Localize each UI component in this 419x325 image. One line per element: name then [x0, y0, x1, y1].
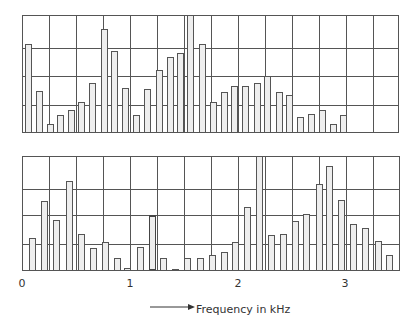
spectrum-bar: [210, 103, 216, 132]
spectrum-bar: [178, 53, 184, 132]
spectrum-bar: [42, 202, 48, 270]
spectrum-bar: [89, 84, 95, 132]
spectrum-bar: [102, 243, 108, 270]
spectrum-bar: [112, 52, 118, 132]
spectrum-bar: [47, 125, 53, 132]
spectrum-bar: [156, 71, 162, 132]
spectrum-bar: [254, 84, 260, 132]
spectrum-bar: [362, 229, 368, 270]
spectrum-bar: [264, 76, 270, 132]
spectrum-bar: [232, 87, 238, 132]
x-tick-3: 3: [342, 277, 349, 290]
spectrum-bar: [316, 185, 322, 271]
spectrum-bar: [257, 156, 263, 270]
spectrum-bar: [30, 239, 36, 270]
spectrum-bar: [327, 166, 333, 270]
spectrum-bar: [245, 207, 251, 270]
spectrum-bar: [287, 95, 293, 132]
spectrum-bar: [54, 220, 60, 270]
spectrum-bar: [221, 93, 227, 133]
spectrum-bar: [233, 243, 239, 270]
x-axis-label: Frequency in kHz: [196, 303, 290, 316]
x-tick-0: 0: [19, 277, 26, 290]
spectrum-bar: [58, 116, 64, 132]
upper-spectrum-panel: [22, 15, 398, 132]
spectrum-bar: [303, 214, 309, 270]
spectrum-bar: [67, 182, 73, 270]
spectrum-bar: [69, 110, 75, 132]
spectrum-bar: [184, 258, 190, 270]
spectrum-bar: [78, 103, 84, 132]
spectrum-bar: [298, 117, 304, 132]
spectrum-bar: [78, 234, 84, 270]
spectrum-bar: [280, 234, 286, 270]
spectrum-bar: [90, 249, 96, 270]
spectrum-chart: [0, 0, 419, 325]
spectrum-bar: [243, 87, 249, 132]
spectrum-bar: [319, 110, 325, 132]
x-tick-1: 1: [127, 277, 134, 290]
spectrum-bar: [144, 90, 150, 132]
spectrum-bar: [221, 253, 227, 270]
x-tick-2: 2: [235, 277, 242, 290]
spectrum-bar: [134, 116, 140, 132]
spectrum-bar: [197, 259, 203, 270]
spectrum-bar: [351, 224, 357, 270]
lower-spectrum-panel: [22, 156, 399, 270]
spectrum-bar: [123, 88, 129, 132]
x-axis-arrow-icon: [150, 304, 195, 310]
spectrum-bar: [161, 259, 167, 270]
spectrum-bar: [167, 57, 173, 132]
spectrum-bar: [114, 259, 120, 270]
spectrum-bar: [339, 200, 345, 270]
spectrum-bar: [386, 256, 392, 270]
spectrum-bar: [330, 125, 336, 132]
spectrum-bar: [375, 242, 381, 271]
spectrum-bar: [188, 15, 194, 132]
spectrum-bar: [292, 222, 298, 270]
spectrum-bar: [276, 93, 282, 133]
spectrum-bar: [308, 115, 314, 133]
spectrum-bar: [101, 30, 107, 132]
spectrum-bar: [269, 236, 275, 270]
spectrum-bar: [26, 44, 32, 132]
spectrum-bar: [199, 44, 205, 132]
spectrum-bar: [150, 216, 156, 270]
spectrum-bar: [209, 256, 215, 270]
spectrum-bar: [138, 247, 144, 270]
spectrum-bar: [341, 116, 347, 132]
spectrum-bar: [36, 91, 42, 132]
